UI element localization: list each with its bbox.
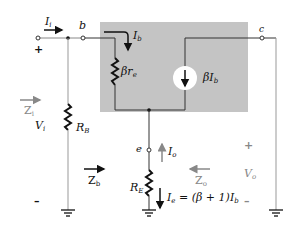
label-zi: Zi: [24, 105, 34, 118]
label-vi-plus: +: [34, 44, 43, 55]
label-io: Io: [168, 146, 177, 159]
emitter-terminal: [147, 148, 151, 152]
label-zo: Zo: [195, 175, 207, 188]
label-beta-re: βre: [121, 66, 137, 79]
label-ie: Ie = (β + 1)Ib: [167, 192, 239, 205]
label-ii: Ii: [45, 16, 52, 29]
label-beta-ib: βIb: [203, 72, 218, 85]
label-node-c: c: [259, 25, 264, 34]
re-resistor: [146, 170, 152, 196]
base-terminal: [81, 36, 85, 40]
ground-symbols: [61, 210, 283, 216]
label-vi: Vi: [35, 120, 45, 133]
label-vo: Vo: [244, 168, 256, 181]
label-zb: Zb: [88, 175, 100, 188]
label-re: RE: [130, 182, 143, 195]
label-vo-plus: +: [244, 140, 253, 151]
label-vo-minus: –: [244, 196, 250, 207]
label-node-b: b: [79, 20, 86, 31]
rb-resistor: [65, 104, 71, 130]
label-rb: RB: [76, 122, 89, 135]
label-vi-minus: –: [34, 196, 40, 207]
label-ib: Ib: [133, 30, 142, 43]
label-node-e: e: [136, 144, 142, 154]
collector-terminal: [260, 36, 264, 40]
circuit-diagram: Ii b Ib βre βIb c + Zi Vi RB – e Io Zb Z…: [0, 0, 293, 233]
input-terminal: [36, 36, 40, 40]
